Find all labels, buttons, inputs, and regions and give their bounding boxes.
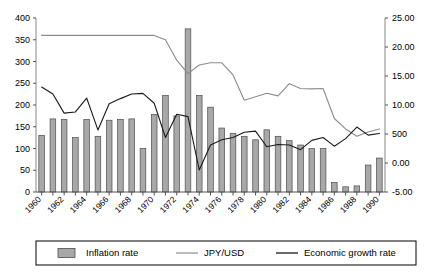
inflation-bar xyxy=(118,119,124,192)
inflation-bar xyxy=(73,138,79,192)
inflation-bar xyxy=(196,95,202,192)
left-axis-tick-label: 150 xyxy=(15,122,30,132)
x-axis-tick-label: 1974 xyxy=(180,194,201,215)
left-axis-tick-label: 400 xyxy=(15,13,30,23)
x-axis-tick-label: 1964 xyxy=(68,194,89,215)
inflation-bar xyxy=(286,141,292,192)
x-axis-tick-label: 1968 xyxy=(113,194,134,215)
inflation-bar xyxy=(298,145,304,192)
inflation-bar xyxy=(95,136,101,192)
x-axis-tick-label: 1980 xyxy=(248,194,269,215)
inflation-bar xyxy=(365,165,371,192)
inflation-bar xyxy=(185,29,191,192)
x-axis-tick-label: 1986 xyxy=(315,194,336,215)
right-axis-tick-label: 15.00 xyxy=(392,71,415,81)
right-axis-tick-label: 20.00 xyxy=(392,42,415,52)
x-axis-tick-label: 1972 xyxy=(158,194,179,215)
x-axis-tick-label: 1960 xyxy=(23,194,44,215)
left-axis: 050100150200250300350400 xyxy=(15,13,36,197)
x-axis-tick-label: 1962 xyxy=(45,194,66,215)
inflation-bar xyxy=(151,115,157,192)
x-axis-tick-label: 1984 xyxy=(293,194,314,215)
inflation-bar xyxy=(354,186,360,192)
x-axis-tick-label: 1970 xyxy=(135,194,156,215)
left-axis-tick-label: 0 xyxy=(25,187,30,197)
left-axis-tick-label: 50 xyxy=(20,165,30,175)
legend-label: JPY/USD xyxy=(204,247,244,258)
right-axis-tick-label: 25.00 xyxy=(392,13,415,23)
inflation-bar xyxy=(264,130,270,192)
legend-label: Economic growth rate xyxy=(304,247,396,258)
x-axis-tick-label: 1978 xyxy=(225,194,246,215)
inflation-bar xyxy=(84,119,90,192)
left-axis-tick-label: 200 xyxy=(15,100,30,110)
inflation-bar xyxy=(230,133,236,192)
left-axis-tick-label: 350 xyxy=(15,35,30,45)
inflation-bar xyxy=(377,158,383,192)
legend-box: Inflation rateJPY/USDEconomic growth rat… xyxy=(36,241,416,265)
left-axis-tick-label: 300 xyxy=(15,57,30,67)
inflation-bar xyxy=(219,128,225,192)
legend-swatch-inflation xyxy=(58,249,75,258)
economic-indicators-chart: 050100150200250300350400 -5.000.0050010.… xyxy=(0,0,441,275)
right-axis-tick-label: 10.00 xyxy=(392,100,415,110)
left-axis-tick-label: 250 xyxy=(15,78,30,88)
inflation-bar xyxy=(174,116,180,192)
inflation-bar xyxy=(343,187,349,192)
x-axis: 1960196219641966196819701972197419761978… xyxy=(23,192,385,215)
chart-canvas: 050100150200250300350400 -5.000.0050010.… xyxy=(0,0,441,275)
legend-label: Inflation rate xyxy=(86,247,138,258)
inflation-bar xyxy=(50,119,56,192)
inflation-bar xyxy=(140,149,146,193)
inflation-bar xyxy=(163,95,169,192)
inflation-bar xyxy=(309,149,315,193)
right-axis-tick-label: -5.00 xyxy=(392,187,413,197)
inflation-bar xyxy=(320,149,326,193)
inflation-bar xyxy=(241,136,247,192)
inflation-bar xyxy=(39,135,45,192)
inflation-bar xyxy=(129,119,135,192)
x-axis-tick-label: 1976 xyxy=(203,194,224,215)
inflation-bar xyxy=(61,119,67,192)
bars-group xyxy=(39,29,382,192)
right-axis-tick-label: 500 xyxy=(392,129,407,139)
left-axis-tick-label: 100 xyxy=(15,144,30,154)
x-axis-tick-label: 1988 xyxy=(338,194,359,215)
x-axis-tick-label: 1982 xyxy=(270,194,291,215)
right-axis-tick-label: 0.00 xyxy=(392,158,410,168)
inflation-bar xyxy=(253,140,259,192)
inflation-bar xyxy=(332,182,338,192)
x-axis-tick-label: 1966 xyxy=(90,194,111,215)
inflation-bar xyxy=(106,120,112,192)
x-axis-tick-label: 1990 xyxy=(360,194,381,215)
right-axis: -5.000.0050010.0015.0020.0025.00 xyxy=(385,13,415,197)
